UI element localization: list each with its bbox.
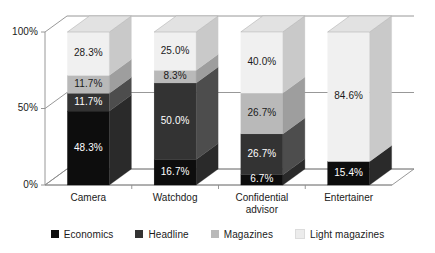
segment-value-label: 6.7%: [231, 173, 293, 184]
chart-canvas: [0, 0, 435, 253]
legend-item[interactable]: Headline: [135, 229, 188, 240]
segment-value-label: 28.3%: [57, 47, 119, 58]
legend-swatch-icon: [295, 229, 305, 239]
segment-value-label: 11.7%: [57, 96, 119, 107]
category-label: Entertainer: [305, 192, 392, 204]
legend-swatch-icon: [135, 230, 143, 238]
y-axis-tick-label: 0%: [0, 179, 38, 190]
y-axis-tick-label: 100%: [0, 26, 38, 37]
y-axis-tick-label: 50%: [0, 102, 38, 113]
segment-value-label: 25.0%: [144, 45, 206, 56]
legend-label: Magazines: [224, 229, 273, 240]
category-label: Watchdog: [132, 192, 219, 204]
legend-label: Economics: [64, 229, 114, 240]
legend-swatch-icon: [211, 230, 219, 238]
segment-value-label: 16.7%: [144, 166, 206, 177]
bar-segment: [328, 16, 392, 161]
segment-side-face: [370, 16, 392, 161]
legend-item[interactable]: Economics: [51, 229, 114, 240]
segment-value-label: 11.7%: [57, 78, 119, 89]
legend-label: Light magazines: [310, 229, 384, 240]
gridline-depth-100: [45, 16, 67, 32]
segment-value-label: 15.4%: [318, 167, 380, 178]
segment-value-label: 40.0%: [231, 56, 293, 67]
segment-value-label: 50.0%: [144, 115, 206, 126]
segment-value-label: 8.3%: [144, 70, 206, 81]
category-label: Confidential advisor: [219, 192, 306, 215]
legend-swatch-icon: [51, 230, 59, 238]
stacked-bar-chart: 48.3%11.7%11.7%28.3%Camera16.7%50.0%8.3%…: [0, 0, 435, 253]
segment-value-label: 26.7%: [231, 148, 293, 159]
segment-value-label: 48.3%: [57, 142, 119, 153]
chart-legend: EconomicsHeadlineMagazinesLight magazine…: [0, 225, 435, 243]
legend-item[interactable]: Light magazines: [295, 229, 384, 240]
legend-label: Headline: [148, 229, 188, 240]
category-label: Camera: [45, 192, 132, 204]
segment-value-label: 84.6%: [318, 90, 380, 101]
segment-value-label: 26.7%: [231, 107, 293, 118]
legend-item[interactable]: Magazines: [211, 229, 273, 240]
